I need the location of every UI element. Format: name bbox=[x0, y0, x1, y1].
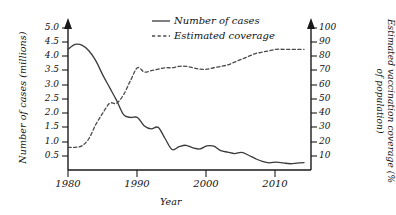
y-left-tick-0-5: 0.5 bbox=[33, 150, 59, 160]
y-left-tick-3-5: 3.5 bbox=[33, 64, 59, 74]
series-line-estimated-coverage bbox=[68, 49, 304, 147]
y-right-tick-50: 50 bbox=[319, 93, 345, 103]
y-left-tick-4-5: 4.5 bbox=[33, 36, 59, 46]
y-right-tick-10: 10 bbox=[319, 150, 345, 160]
legend-label-coverage: Estimated coverage bbox=[174, 30, 275, 41]
y-axis-left-arrow bbox=[64, 18, 72, 29]
x-ticks bbox=[68, 170, 275, 177]
y-right-tick-20: 20 bbox=[319, 136, 345, 146]
y-left-ticks bbox=[62, 28, 68, 156]
y-axis-left-title: Number of cases (millions) bbox=[17, 23, 28, 173]
y-right-tick-60: 60 bbox=[319, 79, 345, 89]
series-line-number-of-cases bbox=[68, 44, 304, 164]
y-left-tick-5-0: 5.0 bbox=[33, 22, 59, 32]
y-left-tick-1-0: 1.0 bbox=[33, 136, 59, 146]
y-right-tick-100: 100 bbox=[319, 22, 345, 32]
y-right-tick-80: 80 bbox=[319, 50, 345, 60]
y-left-tick-3-0: 3.0 bbox=[33, 79, 59, 89]
x-tick-1990: 1990 bbox=[117, 178, 157, 189]
y-left-tick-1-5: 1.5 bbox=[33, 121, 59, 131]
y-right-tick-70: 70 bbox=[319, 64, 345, 74]
x-tick-2010: 2010 bbox=[255, 178, 295, 189]
legend-label-cases: Number of cases bbox=[174, 15, 260, 26]
y-left-tick-2-0: 2.0 bbox=[33, 107, 59, 117]
y-left-tick-2-5: 2.5 bbox=[33, 93, 59, 103]
y-left-tick-4-0: 4.0 bbox=[33, 50, 59, 60]
x-tick-1980: 1980 bbox=[48, 178, 88, 189]
y-axis-right-title: Estimated vaccination coverage (% of pop… bbox=[374, 16, 396, 186]
x-tick-2000: 2000 bbox=[186, 178, 226, 189]
y-right-tick-30: 30 bbox=[319, 121, 345, 131]
y-right-tick-40: 40 bbox=[319, 107, 345, 117]
y-axis-right-arrow bbox=[307, 18, 315, 29]
y-right-tick-90: 90 bbox=[319, 36, 345, 46]
x-axis-title: Year bbox=[160, 196, 182, 207]
y-right-ticks bbox=[311, 28, 317, 156]
